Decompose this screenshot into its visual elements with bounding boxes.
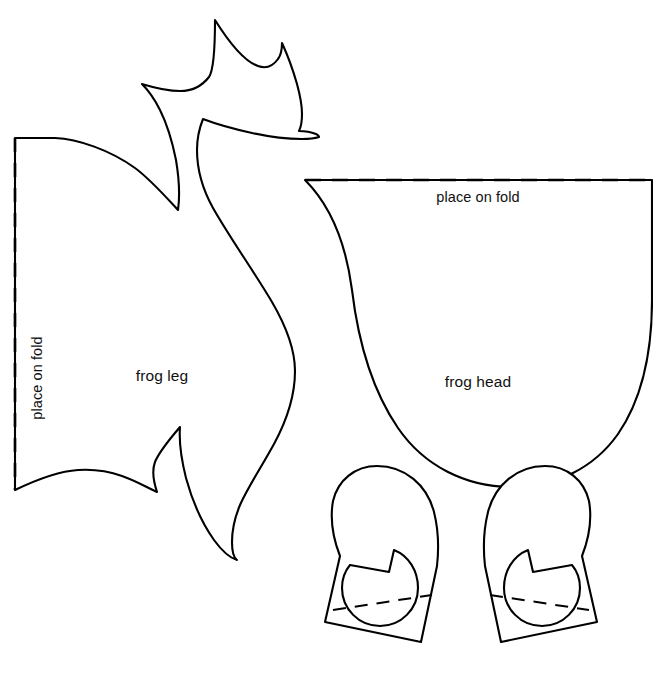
frog-leg-piece[interactable]: place on fold frog leg [15,20,319,560]
pattern-sheet: place on fold frog leg place on fold fro… [0,0,653,678]
pattern-canvas: place on fold frog leg place on fold fro… [0,0,653,678]
frog-head-piece[interactable]: place on fold frog head [305,180,652,487]
frog-leg-fold-label: place on fold [29,336,45,420]
frog-eye-right-piece[interactable] [484,466,597,642]
frog-eye-left-piece[interactable] [325,466,438,642]
frog-leg-label: frog leg [136,367,189,384]
frog-head-outline [305,180,652,487]
frog-leg-outline [15,20,319,560]
frog-head-fold-label: place on fold [436,189,520,205]
frog-head-label: frog head [445,373,511,390]
